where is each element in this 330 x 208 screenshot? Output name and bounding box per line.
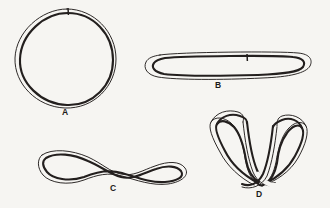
dna-topology-illustration <box>0 0 330 208</box>
panel-label-b: B <box>215 81 221 90</box>
panel-d-shape <box>210 111 307 188</box>
panel-b-shape <box>145 52 311 79</box>
supercoil-d-right-inner-contour <box>264 126 303 184</box>
figure-canvas: A B C D <box>0 0 330 208</box>
loop-c-inner-contour <box>43 154 182 182</box>
panel-c-shape <box>38 151 186 185</box>
circle-a-outer-contour <box>15 9 116 108</box>
circle-a-inner-contour <box>20 13 113 105</box>
panel-label-c: C <box>110 184 116 193</box>
panel-label-a: A <box>62 108 68 117</box>
loop-b-inner-contour <box>153 56 304 76</box>
panel-a-shape <box>15 8 116 108</box>
panel-label-d: D <box>256 190 262 199</box>
